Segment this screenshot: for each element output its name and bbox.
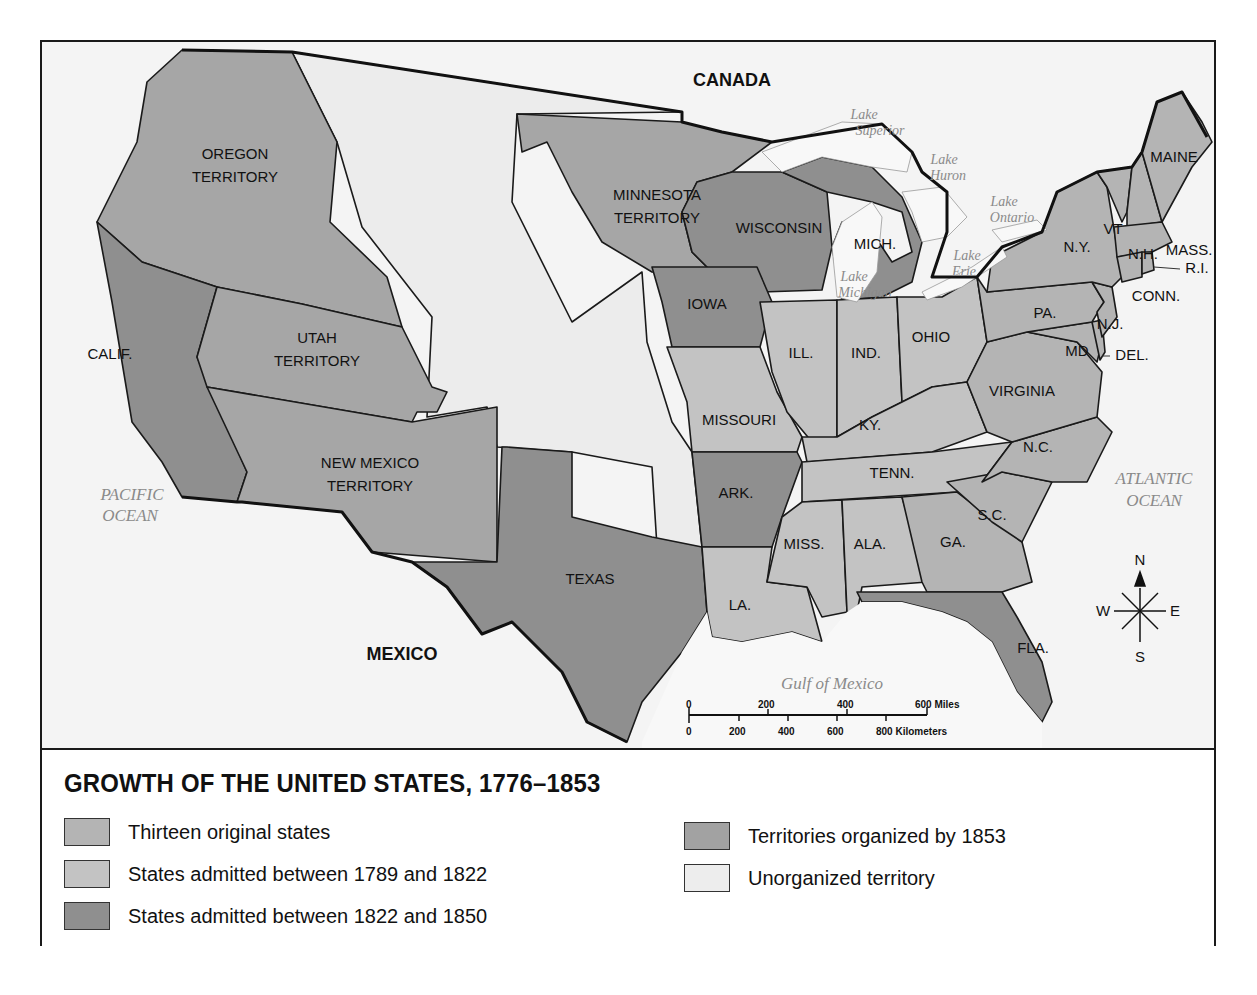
label-miss: MISS. xyxy=(784,535,825,552)
label-new-mexico-2: TERRITORY xyxy=(327,477,413,494)
label-gulf: Gulf of Mexico xyxy=(781,674,883,693)
label-superior-1: Lake xyxy=(849,107,877,122)
label-huron-2: Huron xyxy=(929,168,966,183)
scale-km-600: 600 xyxy=(827,726,844,737)
label-pacific-2: OCEAN xyxy=(102,506,159,525)
label-oregon-1: OREGON xyxy=(202,145,269,162)
label-del: DEL. xyxy=(1115,346,1148,363)
label-iowa: IOWA xyxy=(687,295,726,312)
scale-km-400: 400 xyxy=(778,726,795,737)
legend-swatch xyxy=(64,902,110,930)
map-frame: CANADA MEXICO PACIFIC OCEAN ATLANTIC OCE… xyxy=(40,40,1216,946)
label-atlantic-1: ATLANTIC xyxy=(1115,469,1194,488)
label-michigan-1: Lake xyxy=(839,269,867,284)
scale-mi-600: 600 Miles xyxy=(915,699,960,710)
compass-n: N xyxy=(1135,551,1146,568)
label-ohio: OHIO xyxy=(912,328,950,345)
label-vt: VT xyxy=(1103,220,1122,237)
legend-swatch xyxy=(64,860,110,888)
legend-item-unorganized: Unorganized territory xyxy=(684,864,935,892)
label-nj: N.J. xyxy=(1097,315,1124,332)
label-ny: N.Y. xyxy=(1063,238,1090,255)
label-superior-2: Superior xyxy=(856,123,906,138)
label-michigan-2: Michigan xyxy=(837,285,892,300)
label-md: MD xyxy=(1065,342,1088,359)
scale-km-800: 800 Kilometers xyxy=(876,726,948,737)
legend-swatch xyxy=(64,818,110,846)
label-ga: GA. xyxy=(940,533,966,550)
scale-mi-400: 400 xyxy=(837,699,854,710)
scale-km-0: 0 xyxy=(686,726,692,737)
label-ky: KY. xyxy=(859,416,881,433)
label-nh: N.H. xyxy=(1128,245,1158,262)
label-atlantic-2: OCEAN xyxy=(1126,491,1183,510)
label-oregon-2: TERRITORY xyxy=(192,168,278,185)
label-mexico: MEXICO xyxy=(366,644,437,664)
label-ontario-2: Ontario xyxy=(990,210,1034,225)
legend-swatch xyxy=(684,864,730,892)
label-ill: ILL. xyxy=(788,344,813,361)
label-fla: FLA. xyxy=(1017,639,1049,656)
label-mass: MASS. xyxy=(1166,241,1213,258)
legend-item-territories-1853: Territories organized by 1853 xyxy=(684,822,1006,850)
label-utah-1: UTAH xyxy=(297,329,337,346)
scale-km-200: 200 xyxy=(729,726,746,737)
label-texas: TEXAS xyxy=(565,570,614,587)
label-calif: CALIF. xyxy=(87,345,132,362)
compass-w: W xyxy=(1096,602,1111,619)
label-new-mexico-1: NEW MEXICO xyxy=(321,454,419,471)
label-ark: ARK. xyxy=(718,484,753,501)
map-title: GROWTH OF THE UNITED STATES, 1776–1853 xyxy=(64,768,600,799)
label-tenn: TENN. xyxy=(870,464,915,481)
label-ala: ALA. xyxy=(854,535,887,552)
scale-mi-0: 0 xyxy=(686,699,692,710)
legend-swatch xyxy=(684,822,730,850)
label-mich: MICH. xyxy=(854,235,897,252)
label-minnesota-1: MINNESOTA xyxy=(613,186,701,203)
label-ind: IND. xyxy=(851,344,881,361)
legend-panel: GROWTH OF THE UNITED STATES, 1776–1853 T… xyxy=(42,748,1214,946)
label-ri: R.I. xyxy=(1185,259,1208,276)
compass-s: S xyxy=(1135,648,1145,665)
scale-mi-200: 200 xyxy=(758,699,775,710)
legend-item-admitted-1789-1822: States admitted between 1789 and 1822 xyxy=(64,860,487,888)
label-ontario-1: Lake xyxy=(989,194,1017,209)
label-sc: S.C. xyxy=(977,506,1006,523)
us-growth-map: CANADA MEXICO PACIFIC OCEAN ATLANTIC OCE… xyxy=(42,42,1214,748)
label-erie-2: Erie xyxy=(951,264,976,279)
label-maine: MAINE xyxy=(1150,148,1198,165)
label-virginia: VIRGINIA xyxy=(989,382,1055,399)
label-utah-2: TERRITORY xyxy=(274,352,360,369)
legend-item-thirteen-original: Thirteen original states xyxy=(64,818,330,846)
label-missouri: MISSOURI xyxy=(702,411,776,428)
label-erie-1: Lake xyxy=(952,248,980,263)
label-pacific-1: PACIFIC xyxy=(100,485,165,504)
label-huron-1: Lake xyxy=(929,152,957,167)
label-minnesota-2: TERRITORY xyxy=(614,209,700,226)
label-conn: CONN. xyxy=(1132,287,1180,304)
label-la: LA. xyxy=(729,596,752,613)
label-nc: N.C. xyxy=(1023,438,1053,455)
legend-item-admitted-1822-1850: States admitted between 1822 and 1850 xyxy=(64,902,487,930)
label-pa: PA. xyxy=(1033,304,1056,321)
compass-e: E xyxy=(1170,602,1180,619)
label-canada: CANADA xyxy=(693,70,771,90)
label-wisconsin: WISCONSIN xyxy=(736,219,823,236)
